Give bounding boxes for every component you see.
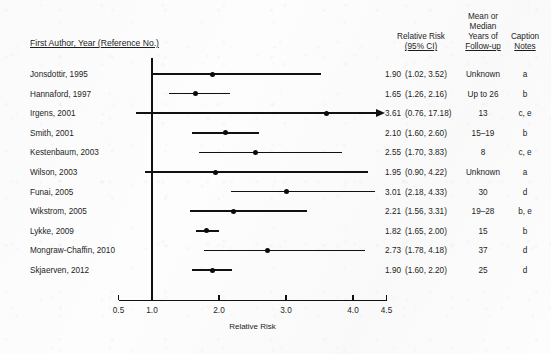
x-axis-tick bbox=[151, 295, 152, 300]
cell-followup-years: 37 bbox=[457, 246, 509, 255]
confidence-interval-value: (1.60, 2.60) bbox=[401, 129, 447, 138]
confidence-interval-line bbox=[145, 171, 367, 173]
null-reference-line bbox=[151, 58, 152, 300]
cell-relative-risk: 3.61(0.76, 17.18) bbox=[381, 109, 461, 118]
confidence-interval-value: (0.90, 4.22) bbox=[401, 168, 447, 177]
cell-caption-notes: b bbox=[503, 90, 547, 99]
cell-relative-risk: 1.82(1.65, 2.00) bbox=[381, 227, 461, 236]
cell-followup-years: Unknown bbox=[457, 70, 509, 79]
cell-caption-notes: c, e bbox=[503, 109, 547, 118]
cell-relative-risk: 2.73(1.78, 4.18) bbox=[381, 246, 461, 255]
confidence-interval-value: (1.60, 2.20) bbox=[401, 266, 447, 275]
confidence-interval-value: (1.70, 3.83) bbox=[401, 148, 447, 157]
cell-relative-risk: 1.65(1.26, 2.16) bbox=[381, 90, 461, 99]
relative-risk-value: 2.10 bbox=[381, 129, 401, 138]
confidence-interval-line bbox=[153, 73, 321, 75]
confidence-interval-value: (1.02, 3.52) bbox=[401, 70, 447, 79]
cell-relative-risk: 2.55(1.70, 3.83) bbox=[381, 148, 461, 157]
cell-relative-risk: 2.21(1.56, 3.31) bbox=[381, 207, 461, 216]
relative-risk-value: 1.65 bbox=[381, 90, 401, 99]
cell-relative-risk: 2.10(1.60, 2.60) bbox=[381, 129, 461, 138]
x-axis-tick-label: 1.0 bbox=[135, 306, 169, 315]
cell-relative-risk: 1.90(1.02, 3.52) bbox=[381, 70, 461, 79]
confidence-interval-value: (1.78, 4.18) bbox=[401, 246, 447, 255]
study-label: Lykke, 2009 bbox=[30, 227, 74, 236]
point-estimate-marker bbox=[210, 72, 215, 77]
confidence-interval-line bbox=[199, 152, 342, 154]
cell-followup-years: 13 bbox=[457, 109, 509, 118]
confidence-interval-value: (1.65, 2.00) bbox=[401, 227, 447, 236]
x-axis-tick bbox=[218, 295, 219, 300]
point-estimate-marker bbox=[231, 209, 236, 214]
study-label: Jonsdottir, 1995 bbox=[30, 70, 88, 79]
x-axis-line bbox=[119, 300, 387, 301]
study-label: Smith, 2001 bbox=[30, 129, 74, 138]
point-estimate-marker bbox=[193, 91, 198, 96]
point-estimate-marker bbox=[253, 150, 258, 155]
cell-caption-notes: d bbox=[503, 188, 547, 197]
relative-risk-value: 1.82 bbox=[381, 227, 401, 236]
cell-followup-years: 15 bbox=[457, 227, 509, 236]
cell-caption-notes: d bbox=[503, 266, 547, 275]
cell-followup-years: 25 bbox=[457, 266, 509, 275]
cell-caption-notes: c, e bbox=[503, 148, 547, 157]
study-label: Irgens, 2001 bbox=[30, 109, 76, 118]
x-axis-tick bbox=[352, 295, 353, 300]
cell-followup-years: 8 bbox=[457, 148, 509, 157]
relative-risk-value: 2.21 bbox=[381, 207, 401, 216]
study-label: Kestenbaum, 2003 bbox=[30, 148, 99, 157]
x-axis-tick bbox=[386, 295, 387, 300]
confidence-interval-line bbox=[231, 191, 375, 193]
point-estimate-marker bbox=[204, 228, 209, 233]
relative-risk-value: 1.90 bbox=[381, 70, 401, 79]
cell-caption-notes: b bbox=[503, 129, 547, 138]
plot-area: Relative Risk 0.51.02.03.04.04.5 bbox=[0, 0, 551, 354]
relative-risk-value: 1.90 bbox=[381, 266, 401, 275]
x-axis-tick-label: 4.0 bbox=[336, 306, 370, 315]
relative-risk-value: 2.55 bbox=[381, 148, 401, 157]
cell-caption-notes: b bbox=[503, 227, 547, 236]
confidence-interval-value: (1.56, 3.31) bbox=[401, 207, 447, 216]
study-label: Hannaford, 1997 bbox=[30, 90, 91, 99]
x-axis-tick-label: 2.0 bbox=[202, 306, 236, 315]
cell-followup-years: Up to 26 bbox=[457, 90, 509, 99]
study-label: Funai, 2005 bbox=[30, 188, 73, 197]
confidence-interval-line bbox=[190, 210, 307, 212]
forest-plot-figure: First Author, Year (Reference No.) Relat… bbox=[0, 0, 551, 354]
confidence-interval-value: (2.18, 4.33) bbox=[401, 188, 447, 197]
cell-caption-notes: b, e bbox=[503, 207, 547, 216]
confidence-interval-value: (0.76, 17.18) bbox=[401, 109, 451, 118]
relative-risk-value: 3.01 bbox=[381, 188, 401, 197]
point-estimate-marker bbox=[223, 130, 228, 135]
study-label: Wilson, 2003 bbox=[30, 168, 77, 177]
point-estimate-marker bbox=[213, 170, 218, 175]
x-axis-tick-label: 4.5 bbox=[370, 306, 404, 315]
confidence-interval-value: (1.26, 2.16) bbox=[401, 90, 447, 99]
cell-caption-notes: a bbox=[503, 168, 547, 177]
study-label: Wikstrom, 2005 bbox=[30, 207, 87, 216]
study-label: Mongraw-Chaffin, 2010 bbox=[30, 246, 115, 255]
cell-caption-notes: a bbox=[503, 70, 547, 79]
cell-followup-years: 19–28 bbox=[457, 207, 509, 216]
x-axis-tick-label: 3.0 bbox=[269, 306, 303, 315]
point-estimate-marker bbox=[265, 248, 270, 253]
confidence-interval-line bbox=[136, 112, 377, 114]
cell-relative-risk: 3.01(2.18, 4.33) bbox=[381, 188, 461, 197]
x-axis-tick bbox=[118, 295, 119, 300]
x-axis-tick-label: 0.5 bbox=[102, 306, 136, 315]
x-axis-title: Relative Risk bbox=[193, 322, 313, 331]
point-estimate-marker bbox=[210, 268, 215, 273]
point-estimate-marker bbox=[284, 189, 289, 194]
cell-caption-notes: d bbox=[503, 246, 547, 255]
confidence-interval-line bbox=[169, 93, 229, 95]
cell-followup-years: 15–19 bbox=[457, 129, 509, 138]
point-estimate-marker bbox=[324, 111, 329, 116]
confidence-interval-line bbox=[204, 250, 365, 252]
x-axis-tick bbox=[285, 295, 286, 300]
relative-risk-value: 3.61 bbox=[381, 109, 401, 118]
study-label: Skjaerven, 2012 bbox=[30, 266, 89, 275]
relative-risk-value: 2.73 bbox=[381, 246, 401, 255]
cell-relative-risk: 1.90(1.60, 2.20) bbox=[381, 266, 461, 275]
cell-followup-years: 30 bbox=[457, 188, 509, 197]
relative-risk-value: 1.95 bbox=[381, 168, 401, 177]
